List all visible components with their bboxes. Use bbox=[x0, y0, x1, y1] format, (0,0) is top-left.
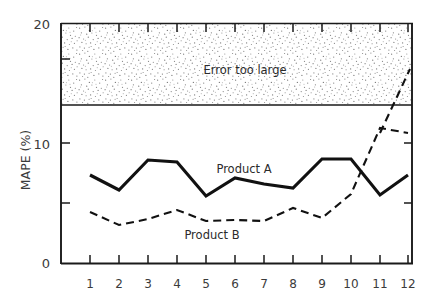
right-axis-ticks bbox=[404, 143, 412, 203]
chart-canvas: 20 10 0 MAPE (%) 1 2 3 4 5 6 7 8 9 10 11… bbox=[0, 0, 440, 299]
y-tick-label-10: 10 bbox=[33, 137, 50, 152]
x-tick-label-9: 9 bbox=[318, 277, 326, 291]
annotation-series-a-label: Product A bbox=[216, 162, 271, 176]
annotation-error-too-large: Error too large bbox=[203, 63, 286, 77]
x-tick-label-1: 1 bbox=[86, 277, 94, 291]
x-tick-label-4: 4 bbox=[173, 277, 181, 291]
x-tick-label-11: 11 bbox=[372, 277, 387, 291]
annotation-series-b-label: Product B bbox=[184, 228, 239, 242]
x-tick-label-5: 5 bbox=[202, 277, 210, 291]
x-tick-label-3: 3 bbox=[144, 277, 152, 291]
x-tick-label-12: 12 bbox=[400, 277, 415, 291]
x-tick-label-2: 2 bbox=[115, 277, 123, 291]
x-tick-label-8: 8 bbox=[289, 277, 297, 291]
x-tick-label-7: 7 bbox=[260, 277, 268, 291]
x-tick-label-10: 10 bbox=[343, 277, 358, 291]
y-tick-label-0: 0 bbox=[42, 256, 50, 271]
chart-container: 20 10 0 MAPE (%) 1 2 3 4 5 6 7 8 9 10 11… bbox=[0, 0, 440, 299]
bottom-axis-ticks bbox=[90, 255, 408, 263]
x-tick-label-6: 6 bbox=[231, 277, 239, 291]
series-line-product-b bbox=[90, 128, 408, 225]
y-tick-label-20: 20 bbox=[33, 17, 50, 32]
y-axis-title: MAPE (%) bbox=[18, 130, 33, 190]
